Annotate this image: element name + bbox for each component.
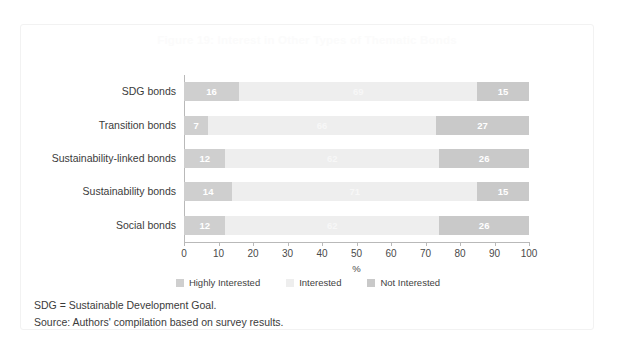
plot-area: 0102030405060708090100 SDG bonds166915Tr… (184, 75, 529, 242)
legend-label: Highly Interested (189, 277, 260, 288)
bar-value-label: 26 (439, 149, 529, 168)
bar-segment: 62 (225, 149, 439, 168)
bar-value-label: 7 (184, 116, 208, 135)
category-label: Sustainability-linked bonds (16, 149, 176, 168)
bar-segment: 26 (439, 149, 529, 168)
bar-segment: 71 (232, 182, 477, 201)
legend-item[interactable]: Highly Interested (176, 277, 260, 288)
figure-card: Figure 19: Interest in Other Types of Th… (20, 24, 594, 330)
bar-value-label: 71 (232, 182, 477, 201)
category-label: Sustainability bonds (16, 182, 176, 201)
bar-value-label: 26 (439, 216, 529, 235)
x-axis-title: % (184, 263, 529, 274)
bar-segment: 16 (184, 82, 239, 101)
bar-value-label: 69 (239, 82, 477, 101)
x-tick-mark (219, 242, 220, 246)
bar-row: Sustainability-linked bonds126226 (184, 149, 529, 168)
legend-swatch-icon (367, 279, 375, 287)
bar-value-label: 66 (208, 116, 436, 135)
bar-value-label: 16 (184, 82, 239, 101)
bar-row: Social bonds126226 (184, 216, 529, 235)
x-tick-mark (460, 242, 461, 246)
category-label: SDG bonds (16, 82, 176, 101)
bar-value-label: 14 (184, 182, 232, 201)
bar-segment: 66 (208, 116, 436, 135)
bar-segment: 14 (184, 182, 232, 201)
bar-segment: 27 (436, 116, 529, 135)
x-tick-mark (357, 242, 358, 246)
note-source: Source: Authors' compilation based on su… (34, 314, 283, 331)
bar-segment: 15 (477, 182, 529, 201)
legend-label: Not Interested (380, 277, 440, 288)
bar-value-label: 15 (477, 82, 529, 101)
bar-segment: 15 (477, 82, 529, 101)
chart-legend: Highly InterestedInterestedNot Intereste… (21, 277, 595, 288)
legend-swatch-icon (286, 279, 294, 287)
legend-swatch-icon (176, 279, 184, 287)
legend-item[interactable]: Not Interested (367, 277, 440, 288)
bar-value-label: 27 (436, 116, 529, 135)
x-tick-mark (426, 242, 427, 246)
legend-item[interactable]: Interested (286, 277, 341, 288)
stacked-bar-chart: 0102030405060708090100 SDG bonds166915Tr… (21, 69, 595, 274)
bar-value-label: 15 (477, 182, 529, 201)
bar-segment: 26 (439, 216, 529, 235)
category-label: Transition bonds (16, 116, 176, 135)
x-tick-mark (391, 242, 392, 246)
bar-row: Transition bonds76627 (184, 116, 529, 135)
note-abbreviation: SDG = Sustainable Development Goal. (34, 297, 283, 314)
bar-row: Sustainability bonds147115 (184, 182, 529, 201)
bar-segment: 12 (184, 216, 225, 235)
bar-segment: 62 (225, 216, 439, 235)
bar-row: SDG bonds166915 (184, 82, 529, 101)
bar-value-label: 62 (225, 216, 439, 235)
x-tick-mark (288, 242, 289, 246)
x-tick-mark (184, 242, 185, 246)
x-tick-mark (529, 242, 530, 246)
bar-value-label: 12 (184, 149, 225, 168)
x-tick-label: 100 (509, 248, 549, 259)
figure-notes: SDG = Sustainable Development Goal. Sour… (34, 297, 283, 331)
x-tick-mark (253, 242, 254, 246)
figure-title: Figure 19: Interest in Other Types of Th… (21, 34, 593, 46)
bar-value-label: 62 (225, 149, 439, 168)
category-label: Social bonds (16, 216, 176, 235)
bar-segment: 12 (184, 149, 225, 168)
bar-value-label: 12 (184, 216, 225, 235)
bar-segment: 7 (184, 116, 208, 135)
bar-segment: 69 (239, 82, 477, 101)
x-tick-mark (322, 242, 323, 246)
legend-label: Interested (299, 277, 341, 288)
x-tick-mark (495, 242, 496, 246)
